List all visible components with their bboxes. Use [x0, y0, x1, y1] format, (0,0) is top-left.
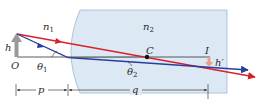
- label-theta1: θ1: [37, 61, 48, 74]
- label-O: O: [11, 60, 19, 71]
- label-h-prime: h′: [215, 57, 224, 68]
- label-h: h: [5, 42, 11, 53]
- label-C: C: [146, 45, 154, 56]
- label-q: q: [132, 84, 138, 95]
- label-n1: n1: [43, 21, 54, 34]
- refraction-diagram: n1 n2 h O θ1 θ2 C I h′ p q: [0, 0, 262, 107]
- object-arrow: [11, 33, 22, 57]
- label-p: p: [38, 84, 45, 95]
- red-ray-direction-arrow: [55, 38, 62, 44]
